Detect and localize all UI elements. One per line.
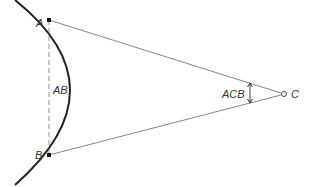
- label-b: B: [35, 149, 42, 161]
- point-a-marker: [47, 18, 51, 22]
- line-a-c: [49, 20, 281, 93]
- angular-size-diagram: A B C AB ACB: [0, 0, 312, 187]
- diagram-svg: A B C AB ACB: [0, 0, 312, 187]
- label-a: A: [35, 17, 43, 29]
- point-b-marker: [47, 153, 51, 157]
- point-c-marker: [282, 92, 287, 97]
- line-b-c: [49, 95, 281, 155]
- label-c: C: [291, 88, 299, 100]
- label-angle-acb: ACB: [221, 88, 245, 100]
- label-chord-ab: AB: [52, 84, 68, 96]
